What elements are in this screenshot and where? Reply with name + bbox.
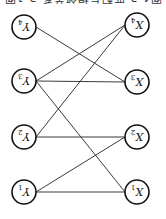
node-x1: X1: [125, 180, 149, 204]
node-y2: Y2: [12, 125, 36, 149]
edge-y1-x2: [36, 137, 125, 192]
edge-y3-x4: [36, 25, 125, 81]
bipartite-graph: Y4Y3Y2Y1X4X3X2X1: [0, 0, 166, 219]
node-x2: X2: [125, 125, 149, 149]
node-x4: X4: [125, 13, 149, 37]
node-x3: X3: [125, 70, 149, 94]
nodes-layer: Y4Y3Y2Y1X4X3X2X1: [12, 13, 149, 204]
edges-layer: [36, 25, 125, 192]
node-y3: Y3: [12, 69, 36, 93]
node-y4: Y4: [12, 15, 36, 39]
node-y1: Y1: [12, 180, 36, 204]
edge-y4-x3: [36, 27, 125, 82]
